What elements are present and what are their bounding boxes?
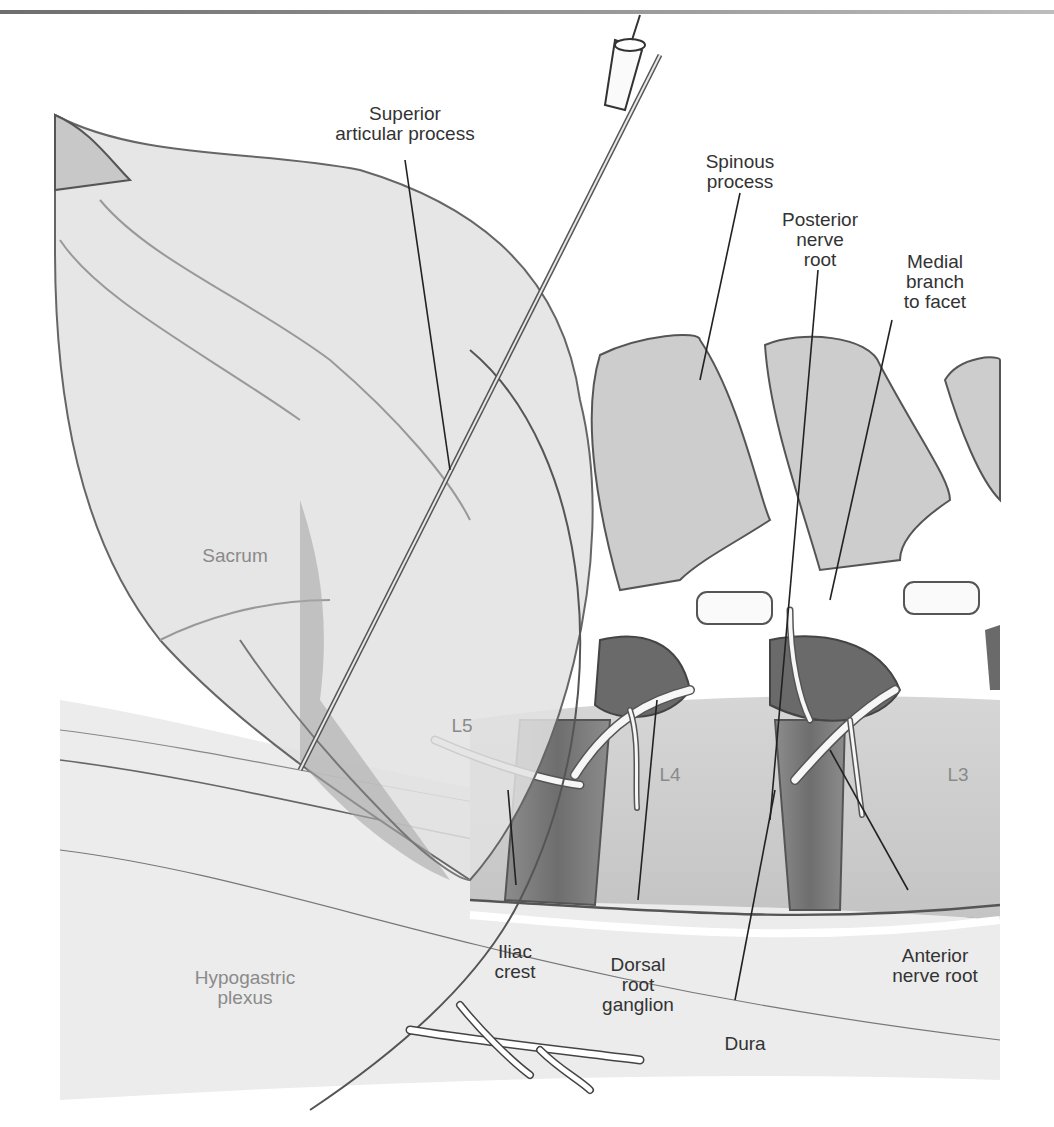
label-dura: Dura	[715, 1034, 775, 1054]
label-l5: L5	[442, 716, 482, 736]
label-dorsal-root-ganglion: Dorsal root ganglion	[588, 955, 688, 1015]
label-sacrum: Sacrum	[180, 546, 290, 566]
label-l3: L3	[938, 765, 978, 785]
spinous-processes	[592, 335, 1000, 624]
label-l4: L4	[650, 765, 690, 785]
label-anterior-nerve-root: Anterior nerve root	[870, 946, 1000, 986]
label-superior-articular-process: Superior articular process	[325, 104, 485, 144]
label-posterior-nerve-root: Posterior nerve root	[770, 210, 870, 270]
label-hypogastric-plexus: Hypogastric plexus	[180, 968, 310, 1008]
label-iliac-crest: Iliac crest	[485, 942, 545, 982]
label-spinous-process: Spinous process	[690, 152, 790, 192]
label-medial-branch-to-facet: Medial branch to facet	[885, 252, 985, 312]
